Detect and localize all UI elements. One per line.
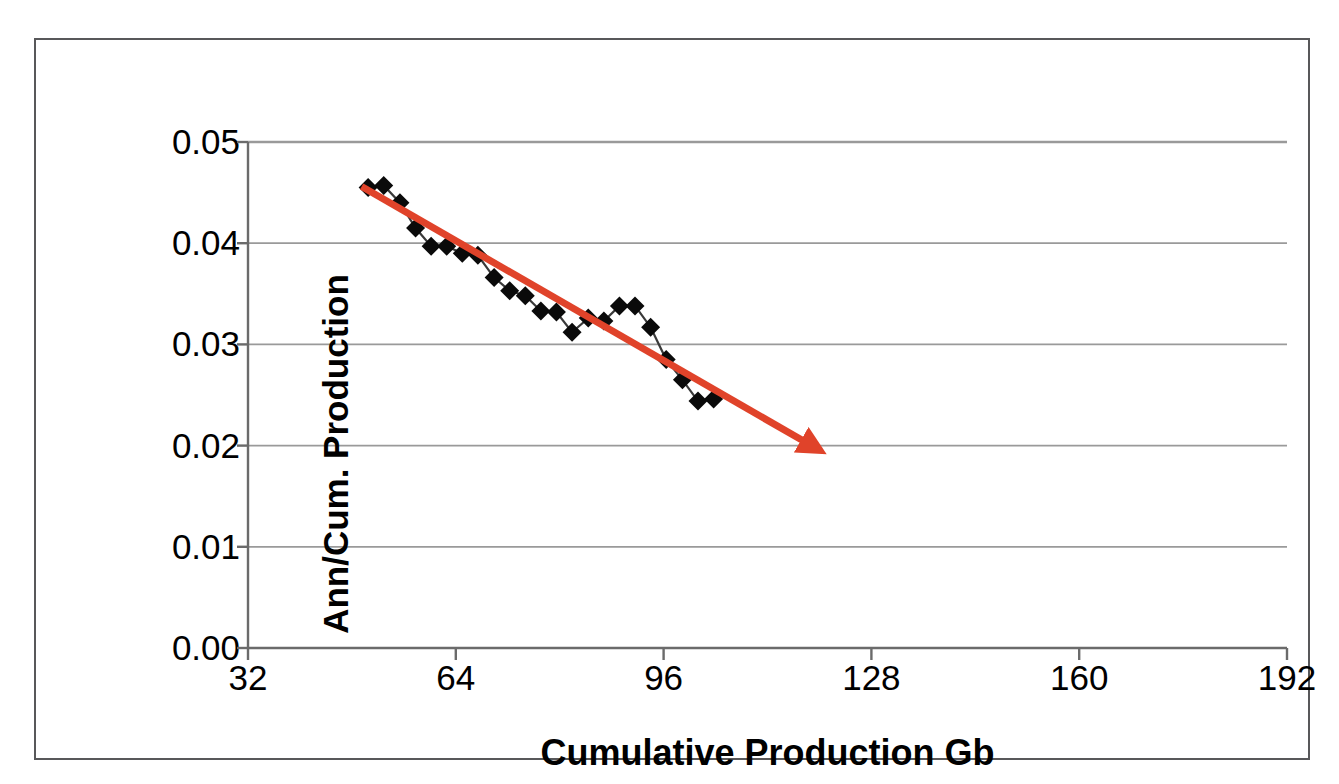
x-tick-label-1: 64 (376, 660, 536, 695)
x-tick-label-5: 192 (1207, 660, 1339, 695)
data-point-marker (689, 392, 708, 411)
y-tick-label-4: 0.01 (90, 529, 240, 564)
data-point-marker (626, 296, 645, 315)
y-tick-label-3: 0.02 (90, 428, 240, 463)
y-tick-label-0: 0.05 (90, 124, 240, 159)
figure-canvas: 0.05 0.04 0.03 0.02 0.01 0.00 (0, 0, 1339, 784)
trend-arrow (362, 187, 810, 445)
plot-area: Ann/Cum. Production (248, 142, 1287, 648)
y-axis-title: Ann/Cum. Production (316, 194, 356, 714)
y-tick-label-1: 0.04 (90, 225, 240, 260)
x-tick-label-2: 96 (584, 660, 744, 695)
y-axis-tick-labels: 0.05 0.04 0.03 0.02 0.01 0.00 (64, 142, 240, 648)
x-axis-title: Cumulative Production Gb (248, 732, 1287, 774)
x-tick-label-4: 160 (999, 660, 1159, 695)
x-axis-tick-marks (248, 648, 1287, 660)
gridlines (248, 142, 1287, 648)
chart-outer-frame: 0.05 0.04 0.03 0.02 0.01 0.00 (34, 38, 1310, 760)
y-tick-label-2: 0.03 (90, 326, 240, 361)
data-point-marker (641, 318, 660, 337)
plot-svg (248, 142, 1287, 648)
x-tick-label-0: 32 (168, 660, 328, 695)
x-axis-tick-labels: 32 64 96 128 160 192 (248, 660, 1287, 708)
x-tick-label-3: 128 (791, 660, 951, 695)
